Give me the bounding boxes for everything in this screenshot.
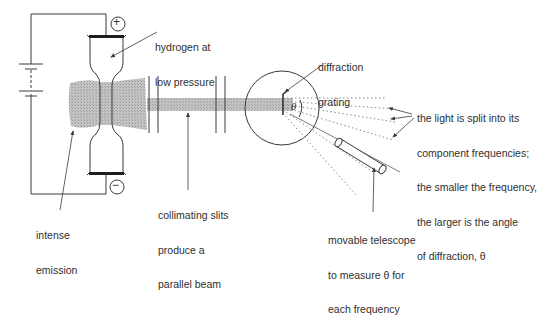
label-collimating-slits: collimating slits produce a parallel bea… [158,187,229,302]
parallel-beam [147,98,293,111]
telescope-icon [334,137,388,175]
positive-terminal-label: + [113,17,120,29]
label-intense-emission: intense emission [36,207,77,288]
label-movable-telescope: movable telescope to measure θ for each … [328,212,416,319]
negative-terminal-label: − [112,180,119,192]
emission-glow [69,78,147,130]
label-hydrogen: hydrogen at low pressure [155,19,215,100]
anode-electrode [89,35,124,38]
cathode-electrode [89,172,124,175]
label-split-frequencies: the light is split into its component fr… [417,90,537,274]
battery-icon [19,64,43,96]
theta-symbol: θ [291,101,296,113]
label-diffraction-grating: diffraction grating [318,39,363,120]
